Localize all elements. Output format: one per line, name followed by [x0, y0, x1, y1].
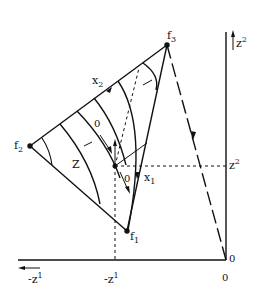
arrow-zero-lower-head	[125, 186, 130, 194]
level-curve-5	[118, 81, 136, 230]
label-z-region: Z	[72, 159, 80, 170]
label-x1: x1	[144, 172, 155, 186]
dashed-line-arrow	[190, 131, 196, 140]
label-origin-bottom: 0	[222, 273, 228, 283]
label-f2: f2	[14, 140, 23, 154]
label-x2: x2	[92, 75, 103, 89]
diagram-lines	[0, 0, 263, 300]
level-curve-2	[60, 124, 100, 204]
diagram: f3 f2 f1 x2 x1 Z 0 0 z2 z2 -z1 -z1 0 0	[0, 0, 263, 300]
edge-f2-f3	[30, 45, 167, 146]
label-z2-top: z2	[236, 36, 247, 49]
label-f1: f1	[130, 231, 139, 245]
up-arrow-head	[113, 139, 117, 146]
arrow-upper-right	[143, 80, 152, 85]
label-neg-z1-left: -z1	[28, 272, 43, 285]
point-center	[113, 164, 117, 168]
label-f3: f3	[167, 30, 176, 44]
level-curve-6	[143, 63, 157, 90]
dashed-line-f3-origin	[167, 45, 226, 260]
label-zero-lower: 0	[124, 174, 130, 184]
arrow-left-upper	[84, 142, 92, 146]
point-f1	[125, 229, 129, 233]
z2-arrowhead	[231, 30, 235, 37]
point-f2	[28, 144, 32, 148]
z1-arrowhead	[18, 266, 25, 270]
label-origin-right: 0	[229, 254, 235, 264]
label-z2-mid: z2	[229, 158, 240, 171]
label-zero-upper: 0	[94, 119, 100, 129]
label-neg-z1-mid: -z1	[104, 272, 119, 285]
